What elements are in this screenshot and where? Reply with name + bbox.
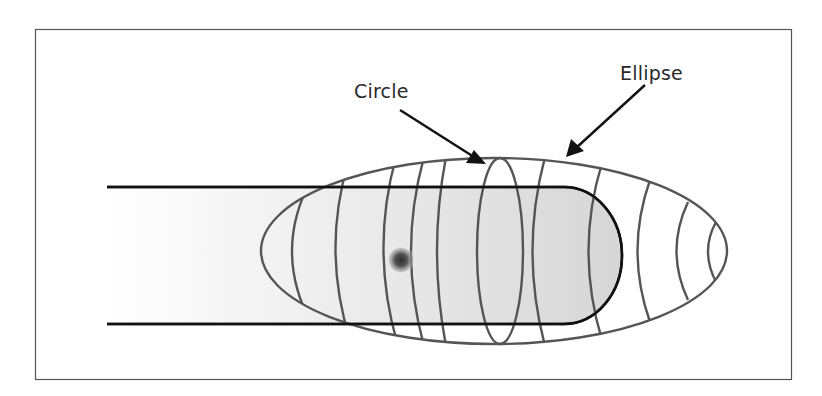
ellipse-label: Ellipse [620, 62, 683, 84]
diagram-canvas: Circle Ellipse [0, 0, 822, 396]
circle-label: Circle [354, 80, 409, 102]
rod-shape [107, 187, 622, 324]
diagram-svg [0, 0, 822, 396]
ellipse-arrow-icon [566, 85, 645, 157]
point-charge-dot [387, 246, 415, 274]
circle-arrow-icon [400, 110, 486, 164]
